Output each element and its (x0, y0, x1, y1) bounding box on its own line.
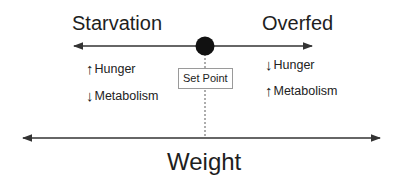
set-point-box: Set Point (178, 68, 233, 89)
overfed-label: Overfed (262, 12, 333, 34)
effect-label: Hunger (274, 58, 315, 72)
weight-axis-label: Weight (167, 149, 241, 175)
arrow-up-icon: ↑ (86, 62, 94, 76)
arrow-down-icon: ↓ (86, 89, 94, 103)
effect-label: Metabolism (95, 89, 159, 103)
left-effect-hunger: ↑ Hunger (86, 62, 136, 76)
set-point-dot (196, 37, 215, 56)
left-effect-metabolism: ↓ Metabolism (86, 89, 158, 103)
arrow-down-icon: ↓ (265, 58, 273, 72)
arrow-up-icon: ↑ (265, 84, 273, 98)
effect-label: Hunger (95, 62, 136, 76)
starvation-label: Starvation (72, 12, 162, 34)
right-effect-hunger: ↓ Hunger (265, 58, 315, 72)
effect-label: Metabolism (274, 84, 338, 98)
right-effect-metabolism: ↑ Metabolism (265, 84, 337, 98)
